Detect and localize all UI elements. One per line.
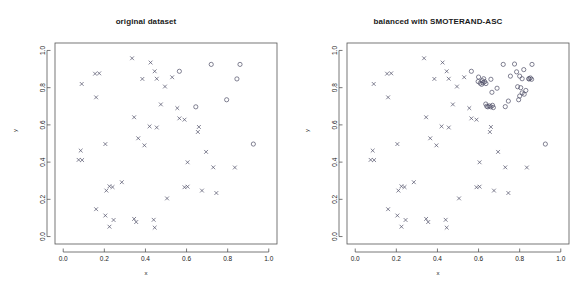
data-point-cross bbox=[120, 180, 124, 184]
series-minority-class bbox=[177, 62, 255, 146]
data-point-cross bbox=[372, 158, 376, 162]
panel-balanced-dataset: balanced with SMOTERAND-ASC 0.00.20.40.6… bbox=[292, 0, 584, 292]
data-point-cross bbox=[386, 207, 390, 211]
data-point-cross bbox=[489, 125, 493, 129]
data-point-cross bbox=[211, 165, 215, 169]
data-point-cross bbox=[94, 95, 98, 99]
data-point-cross bbox=[233, 166, 237, 170]
data-point-circle bbox=[235, 77, 239, 81]
y-axis-title-balanced: y bbox=[304, 129, 310, 132]
data-point-circle bbox=[490, 90, 494, 94]
data-point-cross bbox=[149, 61, 153, 65]
data-point-cross bbox=[445, 226, 449, 230]
figure-root: original dataset 0.00.20.40.60.81.00.00.… bbox=[0, 0, 584, 292]
data-point-circle bbox=[518, 74, 522, 78]
data-point-cross bbox=[428, 136, 432, 140]
series-majority-class bbox=[369, 56, 529, 229]
data-point-cross bbox=[148, 124, 152, 128]
x-axis-title-original: x bbox=[0, 270, 292, 276]
y-tick-label: 0.0 bbox=[40, 232, 47, 241]
x-tick-label: 0.4 bbox=[433, 255, 442, 262]
data-point-cross bbox=[186, 160, 190, 164]
x-axis-title-balanced: x bbox=[292, 270, 584, 276]
data-point-cross bbox=[400, 225, 404, 229]
scatter-plot-balanced: 0.00.20.40.60.81.00.00.20.40.60.81.0 bbox=[292, 0, 584, 292]
data-point-circle bbox=[469, 69, 473, 73]
data-point-cross bbox=[200, 189, 204, 193]
data-point-cross bbox=[467, 106, 471, 110]
data-point-cross bbox=[163, 85, 167, 89]
data-point-cross bbox=[170, 75, 174, 79]
data-point-cross bbox=[403, 185, 407, 189]
data-point-circle bbox=[508, 74, 512, 78]
data-point-cross bbox=[186, 185, 190, 189]
data-point-cross bbox=[385, 72, 389, 76]
data-point-cross bbox=[152, 218, 156, 222]
data-point-cross bbox=[475, 118, 479, 122]
data-point-cross bbox=[451, 103, 455, 107]
data-point-cross bbox=[130, 56, 134, 60]
data-point-cross bbox=[424, 217, 428, 221]
data-point-cross bbox=[386, 95, 390, 99]
data-point-circle bbox=[225, 98, 229, 102]
y-tick-label: 0.2 bbox=[40, 194, 47, 203]
data-point-circle bbox=[518, 94, 522, 98]
data-point-cross bbox=[435, 143, 439, 147]
y-tick-label: 0.4 bbox=[332, 157, 339, 166]
data-point-cross bbox=[404, 218, 408, 222]
data-point-cross bbox=[197, 125, 201, 129]
data-point-cross bbox=[525, 166, 529, 170]
x-tick-label: 0.8 bbox=[223, 255, 232, 262]
panel-original-dataset: original dataset 0.00.20.40.60.81.00.00.… bbox=[0, 0, 292, 292]
data-point-cross bbox=[80, 158, 84, 162]
data-point-cross bbox=[175, 106, 179, 110]
data-point-circle bbox=[543, 142, 547, 146]
data-point-cross bbox=[412, 180, 416, 184]
data-point-cross bbox=[444, 218, 448, 222]
y-axis-title-original: y bbox=[12, 129, 18, 132]
data-point-cross bbox=[488, 130, 492, 134]
x-tick-label: 0.6 bbox=[182, 255, 191, 262]
y-tick-label: 0.6 bbox=[40, 120, 47, 129]
y-tick-label: 0.8 bbox=[332, 83, 339, 92]
x-tick-label: 1.0 bbox=[264, 255, 273, 262]
data-point-cross bbox=[440, 124, 444, 128]
scatter-plot-original: 0.00.20.40.60.81.00.00.20.40.60.81.0 bbox=[0, 0, 292, 292]
data-point-cross bbox=[432, 77, 436, 81]
data-point-cross bbox=[469, 116, 473, 120]
data-point-cross bbox=[153, 226, 157, 230]
data-point-cross bbox=[108, 225, 112, 229]
data-point-cross bbox=[94, 207, 98, 211]
data-point-cross bbox=[426, 220, 430, 224]
data-point-cross bbox=[457, 197, 461, 201]
series-synthetic-minority-samples bbox=[476, 62, 534, 110]
data-point-cross bbox=[372, 82, 376, 86]
series-majority-class bbox=[77, 56, 237, 229]
x-tick-label: 0.4 bbox=[141, 255, 150, 262]
data-point-cross bbox=[204, 150, 208, 154]
x-tick-label: 0.2 bbox=[392, 255, 401, 262]
x-tick-label: 0.8 bbox=[515, 255, 524, 262]
data-point-cross bbox=[143, 143, 147, 147]
data-point-cross bbox=[478, 160, 482, 164]
data-point-cross bbox=[447, 77, 451, 81]
data-point-cross bbox=[396, 189, 400, 193]
data-point-circle bbox=[530, 62, 534, 66]
data-point-cross bbox=[77, 158, 81, 162]
data-point-cross bbox=[79, 149, 83, 153]
data-point-cross bbox=[369, 158, 373, 162]
data-point-cross bbox=[159, 103, 163, 107]
data-point-cross bbox=[111, 185, 115, 189]
x-tick-label: 0.6 bbox=[474, 255, 483, 262]
data-point-cross bbox=[371, 149, 375, 153]
data-point-cross bbox=[506, 191, 510, 195]
data-point-circle bbox=[476, 75, 480, 79]
data-point-cross bbox=[132, 115, 136, 119]
data-point-circle bbox=[503, 105, 507, 109]
data-point-cross bbox=[389, 71, 393, 75]
data-point-cross bbox=[136, 136, 140, 140]
data-point-circle bbox=[489, 77, 493, 81]
data-point-cross bbox=[140, 77, 144, 81]
data-point-circle bbox=[501, 62, 505, 66]
data-point-cross bbox=[462, 75, 466, 79]
